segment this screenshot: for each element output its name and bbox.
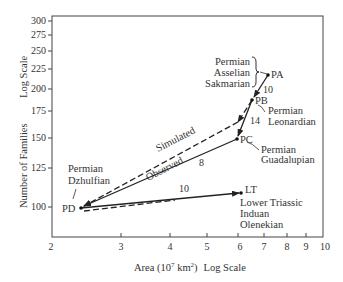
x-tick-9: 9 (304, 241, 309, 252)
y-tick-275: 275 (31, 29, 46, 40)
svg-text:Guadalupian: Guadalupian (261, 154, 315, 165)
svg-text:Leonardian: Leonardian (268, 116, 317, 127)
y-tick-225: 225 (31, 63, 46, 74)
x-axis (121, 233, 306, 237)
point-pc (235, 137, 239, 141)
segment-label-pc-pd: 8 (199, 157, 204, 168)
svg-text:Permian: Permian (215, 56, 251, 67)
segment-label-pd-lt: 10 (179, 183, 189, 194)
annotation-pc: Permian Guadalupian (247, 142, 315, 165)
segment-label-pb-pc: 14 (250, 115, 260, 126)
y-axis-label: Number of Families Log Scale (18, 55, 29, 208)
label-observed: Observed (144, 154, 186, 182)
y-tick-300: 300 (31, 15, 46, 26)
point-lt (239, 191, 243, 195)
svg-text:Olenekian: Olenekian (240, 219, 284, 230)
x-tick-labels: 2 3 4 5 6 7 8 9 10 (49, 241, 331, 252)
y-tick-100: 100 (31, 201, 46, 212)
svg-text:Sakmarian: Sakmarian (205, 78, 251, 89)
svg-text:Log Scale: Log Scale (18, 55, 29, 98)
label-pa: PA (271, 69, 284, 80)
annotation-lt: Lower Triassic Induan Olenekian (240, 197, 303, 230)
point-pd (79, 206, 83, 210)
y-axis (48, 21, 52, 207)
label-simulated: Simulated (154, 124, 198, 153)
y-tick-175: 175 (31, 105, 46, 116)
chart-canvas: 300 275 250 225 200 175 150 125 100 2 3 … (0, 0, 343, 282)
svg-text:Dzhulfian: Dzhulfian (68, 175, 111, 186)
x-tick-10: 10 (320, 241, 330, 252)
y-tick-labels: 300 275 250 225 200 175 150 125 100 (31, 15, 46, 212)
x-tick-3: 3 (119, 241, 124, 252)
annotation-pd: Permian Dzhulfian (68, 163, 111, 199)
y-tick-150: 150 (31, 132, 46, 143)
x-tick-5: 5 (205, 241, 210, 252)
annotation-pa: Permian Asselian Sakmarian (205, 56, 267, 89)
x-tick-7: 7 (262, 241, 267, 252)
segment-label-pa-pb: 10 (263, 84, 273, 95)
x-tick-4: 4 (168, 241, 173, 252)
x-axis-label: Area (107 km2)Log Scale (134, 261, 246, 274)
svg-text:Asselian: Asselian (214, 67, 251, 78)
label-pb: PB (255, 95, 268, 106)
x-tick-8: 8 (285, 241, 290, 252)
annotation-pb: Permian Leonardian (258, 105, 317, 127)
y-tick-200: 200 (31, 83, 46, 94)
x-tick-6: 6 (238, 241, 243, 252)
label-pd: PD (62, 203, 76, 214)
svg-text:Induan: Induan (240, 208, 270, 219)
svg-text:Permian: Permian (268, 105, 304, 116)
svg-text:Lower Triassic: Lower Triassic (240, 197, 303, 208)
x-tick-2: 2 (49, 241, 54, 252)
y-tick-250: 250 (31, 45, 46, 56)
point-pb (250, 98, 254, 102)
svg-text:Number of Families: Number of Families (18, 123, 29, 208)
label-lt: LT (245, 184, 257, 195)
y-tick-125: 125 (31, 162, 46, 173)
svg-text:Permian: Permian (68, 163, 104, 174)
